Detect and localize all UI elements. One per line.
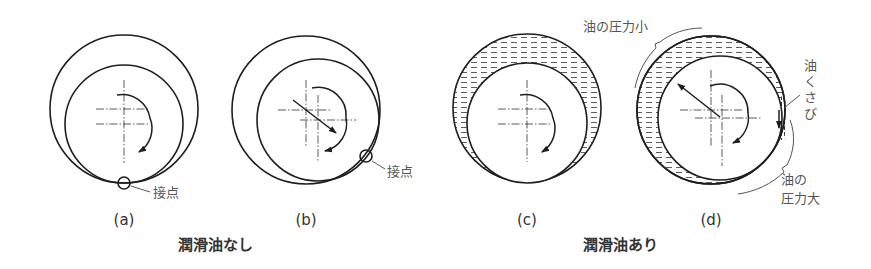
wedge-label-char-1: 油 (804, 58, 817, 73)
group-caption-no-oil: 潤滑油なし (178, 236, 253, 254)
panel-label-b: (b) (295, 211, 316, 229)
low-pressure-label: 油の圧力小 (583, 19, 648, 34)
wedge-label-char-2: く (804, 74, 817, 89)
rotation-arrow-icon (117, 94, 152, 152)
group-caption-with-oil: 潤滑油あり (583, 236, 658, 254)
high-pressure-label-line2: 圧力大 (781, 191, 820, 206)
panel-d: 油の圧力小 油 く さ び 油の 圧力大 (d) (583, 19, 820, 229)
panel-label-d: (d) (700, 211, 721, 229)
wedge-label-char-3: さ (804, 90, 817, 105)
panel-a: 接点 (a) (50, 35, 198, 229)
panel-label-a: (a) (114, 211, 135, 229)
contact-leader (372, 161, 385, 169)
wedge-label-char-4: び (804, 106, 817, 121)
panel-label-c: (c) (517, 211, 537, 229)
contact-leader (131, 186, 150, 192)
contact-label: 接点 (387, 164, 413, 179)
eccentricity-arrow-icon (293, 100, 336, 133)
contact-point-marker (360, 150, 372, 162)
panel-c: (c) (453, 34, 601, 229)
panel-b: 接点 (b) (232, 36, 413, 229)
contact-label: 接点 (153, 185, 179, 200)
wedge-leader (784, 95, 800, 108)
journal-bearing-diagram: 接点 (a) 接点 (b) (c) (0, 0, 871, 269)
high-pressure-label-line1: 油の (781, 172, 807, 187)
